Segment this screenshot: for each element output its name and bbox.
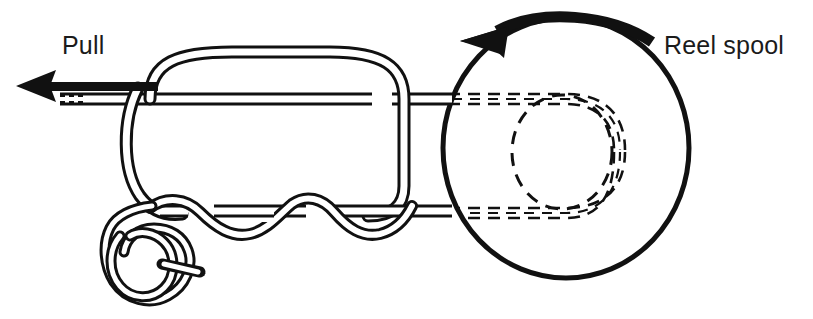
spool-outer-circle — [443, 18, 689, 278]
line-top-loop — [150, 52, 404, 216]
diagram-canvas: Pull Reel spool — [0, 0, 813, 319]
pull-label: Pull — [62, 33, 105, 58]
reel-spool-group — [443, 18, 689, 278]
knot-tail-loop — [105, 206, 200, 301]
reel-spool-label: Reel spool — [664, 33, 784, 58]
